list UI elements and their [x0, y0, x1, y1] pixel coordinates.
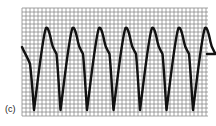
- panel-label: (c): [5, 104, 16, 114]
- waveform-figure: (c): [0, 0, 216, 126]
- waveform-plot: [0, 0, 216, 126]
